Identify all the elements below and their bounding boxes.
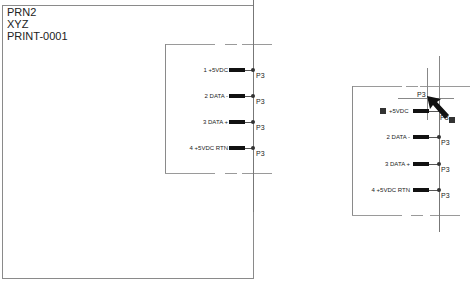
pin-dot — [251, 94, 255, 98]
pin-ref-label[interactable]: P3 — [256, 150, 265, 158]
pin-ref-label[interactable]: P3 — [256, 72, 265, 80]
floating-ref-label[interactable]: P3 — [440, 114, 449, 122]
pin-bar — [413, 135, 429, 139]
part-body-prn2[interactable] — [2, 5, 254, 279]
pin-label: 4 +5VDC RTN — [372, 187, 410, 194]
selection-grip[interactable] — [380, 108, 386, 114]
pin-bar — [229, 68, 245, 72]
pin-label: 2 DATA - — [387, 134, 410, 141]
pin-bar — [413, 162, 429, 166]
pin-label: 4 +5VDC RTN — [190, 145, 228, 152]
pin-dot — [251, 120, 255, 124]
pin-ref-label[interactable]: P3 — [417, 91, 426, 99]
pin-ref-label[interactable]: P3 — [441, 166, 450, 174]
pin-bar — [229, 94, 245, 98]
pin-bar — [229, 120, 245, 124]
pin-label: 3 DATA + — [203, 119, 228, 126]
pin-label: +5VDC — [389, 108, 409, 115]
pin-dot — [251, 68, 255, 72]
pin-label: 2 DATA - — [205, 93, 228, 100]
selection-grip[interactable] — [449, 117, 455, 123]
part-title-line-3: PRINT-0001 — [7, 31, 68, 42]
part-title-line-2: XYZ — [7, 19, 28, 30]
pin-ref-label[interactable]: P3 — [441, 192, 450, 200]
pin-bar — [413, 188, 429, 192]
pin-ref-label[interactable]: P3 — [441, 139, 450, 147]
pin-dot — [251, 146, 255, 150]
part-title-line-1: PRN2 — [7, 7, 36, 18]
pin-ref-label[interactable]: P3 — [256, 124, 265, 132]
pin-ref-label[interactable]: P3 — [256, 98, 265, 106]
pin-label: 1 +5VDC — [203, 67, 228, 74]
pin-label: 3 DATA + — [385, 161, 410, 168]
pin-bar — [229, 146, 245, 150]
